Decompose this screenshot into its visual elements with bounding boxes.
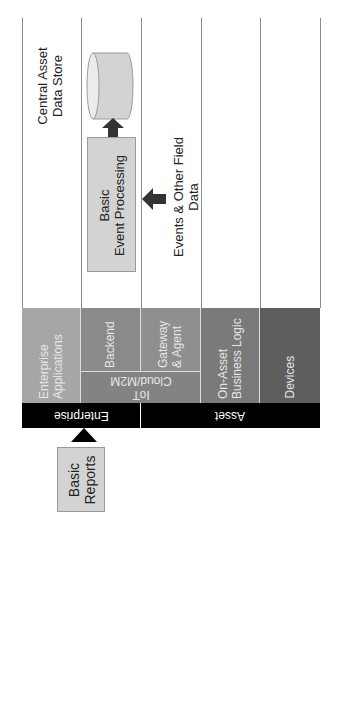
lane-divider [141, 18, 142, 308]
layer-devices: Devices [260, 308, 320, 403]
lane-divider [81, 18, 82, 308]
basic-event-processing-node: Basic Event Processing [87, 137, 136, 272]
lane-divider [22, 18, 23, 308]
basic-reports-node: Basic Reports [57, 447, 105, 512]
layer-backend: Backend [81, 308, 141, 372]
layer-on-asset-business-logic: On-Asset Business Logic [201, 308, 260, 403]
lane-divider [260, 18, 261, 308]
layer-iot-cloud-m2m: IoT Cloud/M2M [81, 372, 201, 403]
central-asset-data-store-label: Central Asset Data Store [31, 31, 71, 141]
group-asset: Asset [141, 403, 320, 428]
arrow-left-icon [142, 188, 166, 210]
layer-enterprise-applications: Enterprise Applications [22, 308, 81, 403]
database-cylinder-icon [86, 52, 134, 120]
layer-gateway-agent: Gateway & Agent [141, 308, 201, 372]
lane-divider [320, 18, 321, 308]
events-field-data-label: Events & Other Field Data [176, 122, 198, 272]
group-enterprise: Enterprise [22, 403, 141, 428]
triangle-up-icon [71, 428, 97, 442]
